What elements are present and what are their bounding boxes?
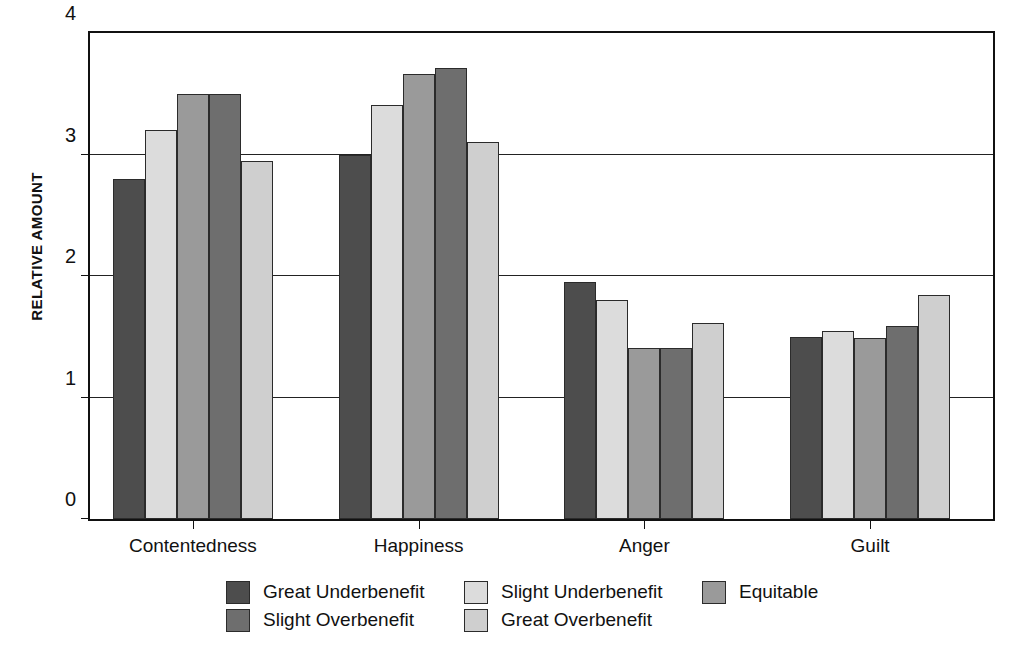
x-category-label-3: Guilt	[720, 535, 1018, 557]
legend-label: Great Overbenefit	[501, 609, 652, 631]
bar-contentedness-series-4	[241, 161, 273, 519]
legend-label: Equitable	[739, 581, 818, 603]
bar-anger-series-2	[628, 348, 660, 519]
bar-anger-series-1	[596, 300, 628, 519]
y-tick-label-2: 2	[16, 246, 76, 266]
bar-happiness-series-3	[435, 68, 467, 519]
bar-chart-figure: RELATIVE AMOUNT 01234 ContentednessHappi…	[0, 0, 1018, 661]
legend-entry-great-overbenefit[interactable]: Great Overbenefit	[464, 609, 702, 632]
y-tick-label-0: 0	[16, 489, 76, 509]
bar-happiness-series-2	[403, 74, 435, 519]
legend-swatch-icon	[226, 609, 250, 632]
x-tick-mark-2	[644, 519, 645, 529]
bar-contentedness-series-2	[177, 94, 209, 519]
bar-anger-series-3	[660, 348, 692, 519]
y-tick-label-1: 1	[16, 368, 76, 388]
y-tick-label-3: 3	[16, 125, 76, 145]
bar-guilt-series-2	[854, 338, 886, 519]
bar-guilt-series-4	[918, 295, 950, 519]
bar-contentedness-series-3	[209, 94, 241, 519]
legend-entry-equitable[interactable]: Equitable	[702, 581, 862, 604]
legend-label: Slight Underbenefit	[501, 581, 663, 603]
y-tick-mark-1	[81, 397, 90, 398]
y-tick-mark-3	[81, 154, 90, 155]
legend-row-0: Great UnderbenefitSlight UnderbenefitEqu…	[226, 578, 866, 606]
chart-legend: Great UnderbenefitSlight UnderbenefitEqu…	[226, 578, 866, 634]
legend-label: Great Underbenefit	[263, 581, 425, 603]
legend-swatch-icon	[702, 581, 726, 604]
bar-contentedness-series-0	[113, 179, 145, 519]
x-tick-mark-0	[193, 519, 194, 529]
y-tick-mark-2	[81, 275, 90, 276]
bar-happiness-series-0	[339, 155, 371, 520]
bar-contentedness-series-1	[145, 130, 177, 519]
plot-area: 01234 ContentednessHappinessAngerGuilt	[88, 31, 995, 521]
bar-anger-series-4	[692, 323, 724, 519]
bar-guilt-series-1	[822, 331, 854, 519]
x-tick-mark-1	[419, 519, 420, 529]
bar-happiness-series-4	[467, 142, 499, 519]
x-tick-mark-3	[870, 519, 871, 529]
legend-entry-great-underbenefit[interactable]: Great Underbenefit	[226, 581, 464, 604]
legend-swatch-icon	[464, 609, 488, 632]
legend-swatch-icon	[464, 581, 488, 604]
legend-entry-slight-overbenefit[interactable]: Slight Overbenefit	[226, 609, 464, 632]
legend-swatch-icon	[226, 581, 250, 604]
bar-happiness-series-1	[371, 105, 403, 519]
bar-guilt-series-0	[790, 337, 822, 519]
y-tick-label-4: 4	[16, 3, 76, 23]
legend-row-1: Slight OverbenefitGreat Overbenefit	[226, 606, 866, 634]
legend-label: Slight Overbenefit	[263, 609, 414, 631]
bar-guilt-series-3	[886, 326, 918, 519]
bar-anger-series-0	[564, 282, 596, 519]
y-tick-mark-0	[81, 518, 90, 519]
legend-entry-slight-underbenefit[interactable]: Slight Underbenefit	[464, 581, 702, 604]
